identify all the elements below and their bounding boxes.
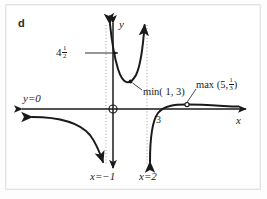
graph-canvas <box>6 5 260 189</box>
y-intercept-denominator: 2 <box>62 53 67 60</box>
minimum-label-text: min( 1, 3) <box>143 86 185 97</box>
vertical-asymptote-left-label: x=−1 <box>90 171 115 182</box>
horizontal-asymptote-label: y=0 <box>23 93 41 104</box>
x-intercept-label: 3 <box>156 115 161 125</box>
y-axis-label: y <box>119 19 124 30</box>
maximum-label-denominator: 3 <box>229 85 234 92</box>
curve-right-branch <box>150 105 238 162</box>
maximum-point-marker <box>185 103 189 107</box>
min-label-leader <box>133 83 143 90</box>
figure-panel: d 412 y x y=0 min( 1, 3) max (5,13) 3 x=… <box>5 4 261 190</box>
curve-left-branch <box>32 117 103 162</box>
figure-root: d 412 y x y=0 min( 1, 3) max (5,13) 3 x=… <box>0 0 267 199</box>
maximum-label-prefix: max (5, <box>196 79 228 90</box>
y-intercept-whole: 4 <box>56 46 62 58</box>
y-intercept-label: 412 <box>56 46 67 61</box>
panel-label: d <box>18 18 25 29</box>
vertical-asymptote-right-label: x=2 <box>139 171 157 182</box>
maximum-label: max (5,13) <box>196 78 237 92</box>
x-axis-label: x <box>236 115 241 126</box>
minimum-label: min( 1, 3) <box>143 87 185 98</box>
vertical-asymptote-left-text: x=−1 <box>90 170 115 182</box>
vertical-asymptote-right-text: x=2 <box>139 170 157 182</box>
maximum-label-suffix: ) <box>234 79 238 90</box>
horizontal-asymptote-text: y=0 <box>23 92 41 104</box>
max-label-leader <box>187 89 196 102</box>
minimum-point-marker <box>129 80 133 84</box>
